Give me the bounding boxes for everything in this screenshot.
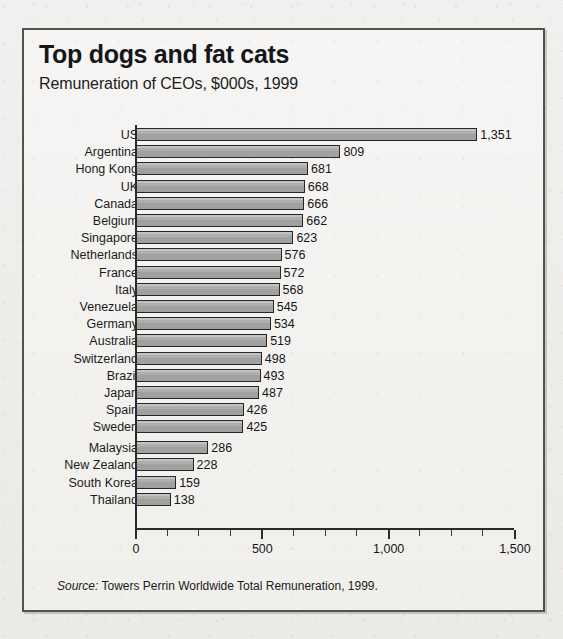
x-tick-label: 1,500 [499, 542, 530, 556]
bar [136, 369, 261, 382]
x-tick-major [388, 530, 390, 539]
x-tick-minor [230, 530, 231, 536]
bar-category-label: Brazil [0, 368, 138, 385]
bar-row: Sweden425 [24, 419, 547, 436]
bar [136, 420, 243, 433]
bar-category-label: Sweden [0, 419, 138, 436]
x-tick-minor [419, 530, 420, 536]
bar [136, 458, 194, 471]
bar-row: Malaysia286 [24, 440, 547, 457]
bar-row: Belgium662 [24, 213, 547, 230]
x-tick-minor [356, 530, 357, 536]
bar [136, 248, 282, 261]
x-tick-major [261, 530, 263, 539]
bar-row: Spain426 [24, 402, 547, 419]
bar-row: France572 [24, 265, 547, 282]
bar-value-label: 487 [262, 385, 283, 401]
bar-row: Canada666 [24, 196, 547, 213]
bar-value-label: 159 [179, 475, 200, 491]
bar [136, 386, 259, 399]
x-tick-minor [198, 530, 199, 536]
bar-value-label: 1,351 [480, 127, 511, 143]
x-tick-minor [167, 530, 168, 536]
bar-row: Venezuela545 [24, 299, 547, 316]
bar-value-label: 666 [307, 196, 328, 212]
bar-category-label: Singapore [0, 230, 138, 247]
x-tick-minor [482, 530, 483, 536]
bar-value-label: 576 [285, 247, 306, 263]
bar-value-label: 493 [264, 368, 285, 384]
bar-category-label: Spain [0, 402, 138, 419]
bar-category-label: Netherlands [0, 247, 138, 264]
bar-row: Germany534 [24, 316, 547, 333]
bar-category-label: South Korea [0, 475, 138, 492]
x-tick-label: 500 [252, 542, 273, 556]
source-label: Source: [57, 579, 98, 593]
bar [136, 493, 171, 506]
bar-row: South Korea159 [24, 475, 547, 492]
bar-row: New Zealand228 [24, 457, 547, 474]
bar-value-label: 228 [197, 457, 218, 473]
bar-value-label: 623 [296, 230, 317, 246]
bar-category-label: Venezuela [0, 299, 138, 316]
bar [136, 283, 280, 296]
bar-category-label: Australia [0, 333, 138, 350]
bar-row: Thailand138 [24, 492, 547, 509]
bar-value-label: 138 [174, 492, 195, 508]
x-tick-major [135, 530, 137, 539]
bar-value-label: 568 [283, 282, 304, 298]
bar-value-label: 498 [265, 351, 286, 367]
chart-subtitle: Remuneration of CEOs, $000s, 1999 [39, 75, 298, 93]
bar-row: Singapore623 [24, 230, 547, 247]
bar-value-label: 534 [274, 316, 295, 332]
bar-category-label: Canada [0, 196, 138, 213]
x-tick-minor [451, 530, 452, 536]
bar [136, 145, 340, 158]
bar [136, 180, 305, 193]
bar [136, 300, 274, 313]
bar-row: Italy568 [24, 282, 547, 299]
bar-category-label: Switzerland [0, 351, 138, 368]
y-axis-line [135, 125, 137, 529]
bar-category-label: Hong Kong [0, 161, 138, 178]
bar-category-label: US [0, 127, 138, 144]
bar-row: US1,351 [24, 127, 547, 144]
bar [136, 197, 304, 210]
bar-row: Argentina809 [24, 144, 547, 161]
bar [136, 128, 477, 141]
bar-row: Switzerland498 [24, 351, 547, 368]
chart-figure: Top dogs and fat cats Remuneration of CE… [22, 28, 545, 612]
bar [136, 352, 262, 365]
x-tick-label: 1,000 [373, 542, 404, 556]
x-tick-label: 0 [133, 542, 140, 556]
source-text: Towers Perrin Worldwide Total Remunerati… [98, 579, 377, 593]
bar-category-label: Argentina [0, 144, 138, 161]
bar-value-label: 809 [343, 144, 364, 160]
bar-value-label: 668 [308, 179, 329, 195]
bar [136, 266, 281, 279]
bar-value-label: 572 [284, 265, 305, 281]
bar-row: Brazil493 [24, 368, 547, 385]
bar-category-label: UK [0, 179, 138, 196]
bar [136, 334, 267, 347]
x-tick-minor [293, 530, 294, 536]
bar-category-label: Malaysia [0, 440, 138, 457]
bar-category-label: Thailand [0, 492, 138, 509]
bar-value-label: 519 [270, 333, 291, 349]
bar-category-label: Italy [0, 282, 138, 299]
bar [136, 317, 271, 330]
bar [136, 231, 293, 244]
bar-row: Japan487 [24, 385, 547, 402]
bar [136, 214, 303, 227]
bar-value-label: 681 [311, 161, 332, 177]
bar-value-label: 545 [277, 299, 298, 315]
x-tick-major [514, 530, 516, 539]
chart-title: Top dogs and fat cats [39, 40, 289, 69]
bar-row: UK668 [24, 179, 547, 196]
bar-category-label: Belgium [0, 213, 138, 230]
x-tick-minor [325, 530, 326, 536]
bar-category-label: New Zealand [0, 457, 138, 474]
bar-value-label: 286 [211, 440, 232, 456]
bar-value-label: 662 [306, 213, 327, 229]
bar-category-label: Germany [0, 316, 138, 333]
